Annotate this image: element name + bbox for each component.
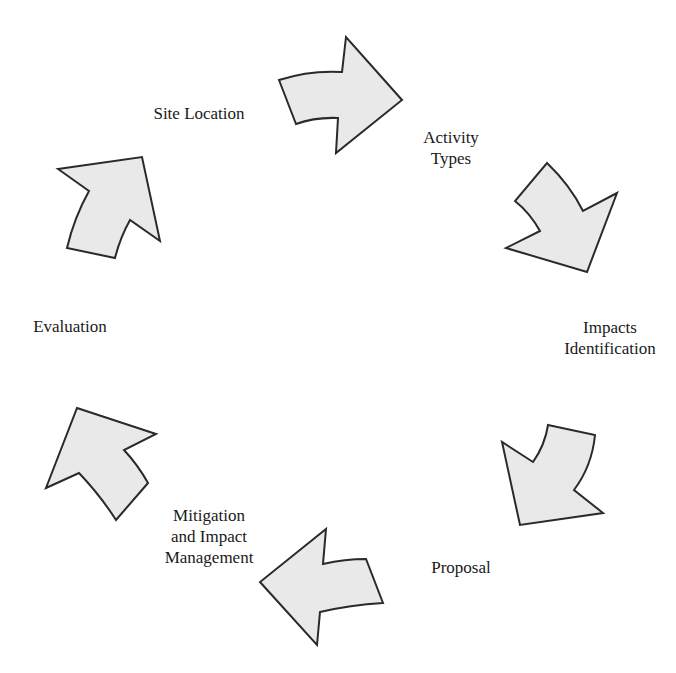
label-line: Impacts: [548, 317, 672, 338]
arrow-proposal-to-mitigation-icon: [260, 529, 383, 645]
label-line: Management: [150, 547, 268, 568]
arrow-evaluation-to-site-icon: [58, 157, 160, 258]
stage-label-mitigation: Mitigation and Impact Management: [150, 505, 268, 568]
stage-label-evaluation: Evaluation: [22, 316, 118, 337]
stage-label-impacts-identification: Impacts Identification: [548, 317, 672, 359]
arrow-mitigation-to-evaluation-icon: [46, 408, 156, 520]
label-line: Site Location: [140, 103, 258, 124]
label-line: Proposal: [420, 557, 502, 578]
label-line: and Impact: [150, 526, 268, 547]
stage-label-activity-types: Activity Types: [408, 127, 494, 169]
arrow-impacts-to-proposal-icon: [502, 425, 603, 525]
label-line: Activity: [408, 127, 494, 148]
label-line: Types: [408, 148, 494, 169]
label-line: Identification: [548, 338, 672, 359]
cycle-diagram: Site Location Activity Types Impacts Ide…: [0, 0, 676, 673]
label-line: Evaluation: [22, 316, 118, 337]
stage-label-site-location: Site Location: [140, 103, 258, 124]
label-line: Mitigation: [150, 505, 268, 526]
stage-label-proposal: Proposal: [420, 557, 502, 578]
arrow-activity-to-impacts-icon: [506, 163, 617, 272]
arrow-site-to-activity-icon: [279, 37, 402, 153]
